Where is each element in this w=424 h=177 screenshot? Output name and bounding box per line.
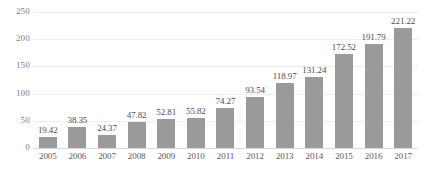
bar[interactable] [187,118,205,148]
bar-slot: 47.82 [122,12,152,148]
bar-value-label: 74.27 [216,97,236,106]
x-axis-tick-label: 2010 [181,151,211,161]
bar[interactable] [335,54,353,148]
x-axis-tick-label: 2009 [151,151,181,161]
x-axis-tick-label: 2005 [33,151,63,161]
bar-value-label: 191.79 [361,33,385,42]
x-axis-baseline [33,148,418,149]
y-axis-tick-label: 0 [4,143,30,152]
bar[interactable] [394,28,412,148]
bar-value-label: 19.42 [38,126,58,135]
x-axis-tick-label: 2008 [122,151,152,161]
bar-slot: 52.81 [151,12,181,148]
bar-slot: 74.27 [211,12,241,148]
bar-value-label: 93.54 [245,86,265,95]
plot-area: 19.4238.3524.3747.8252.8155.8274.2793.54… [33,12,418,148]
x-axis-tick-label: 2012 [240,151,270,161]
bar[interactable] [216,108,234,148]
bar-slot: 24.37 [92,12,122,148]
bar[interactable] [128,122,146,148]
x-axis-tick-label: 2006 [63,151,93,161]
bar-value-label: 38.35 [68,116,88,125]
bar-slot: 172.52 [329,12,359,148]
bar-value-label: 47.82 [127,111,147,120]
bar-slot: 221.22 [388,12,418,148]
bar[interactable] [365,44,383,148]
bar[interactable] [39,137,57,148]
bar-slot: 19.42 [33,12,63,148]
bar-value-label: 52.81 [156,108,176,117]
x-axis-tick-label: 2014 [300,151,330,161]
y-axis-tick-label: 150 [4,61,30,70]
x-axis: 2005200620072008200920102011201220132014… [33,151,418,169]
bar-value-label: 55.82 [186,107,206,116]
bar[interactable] [68,127,86,148]
bar[interactable] [246,97,264,148]
y-axis-tick-label: 200 [4,34,30,43]
x-axis-tick-label: 2011 [211,151,241,161]
bar[interactable] [305,77,323,148]
bar-slot: 191.79 [359,12,389,148]
y-axis: 050100150200250 [0,12,30,148]
x-axis-tick-label: 2007 [92,151,122,161]
y-axis-tick-label: 100 [4,89,30,98]
bar[interactable] [157,119,175,148]
bar[interactable] [276,83,294,148]
bar-value-label: 131.24 [302,66,326,75]
bar-slot: 93.54 [240,12,270,148]
bar-value-label: 118.97 [273,72,297,81]
bar-slot: 38.35 [63,12,93,148]
x-axis-tick-label: 2017 [388,151,418,161]
y-axis-tick-label: 50 [4,116,30,125]
bar-slot: 118.97 [270,12,300,148]
x-axis-tick-label: 2016 [359,151,389,161]
bar-value-label: 221.22 [391,17,415,26]
y-axis-tick-label: 250 [4,7,30,16]
x-axis-tick-label: 2015 [329,151,359,161]
bar-slot: 131.24 [300,12,330,148]
x-axis-tick-label: 2013 [270,151,300,161]
bar-value-label: 24.37 [97,124,117,133]
bar-chart: 050100150200250 19.4238.3524.3747.8252.8… [0,0,424,177]
bar-value-label: 172.52 [332,43,356,52]
bar[interactable] [98,135,116,148]
bar-slot: 55.82 [181,12,211,148]
